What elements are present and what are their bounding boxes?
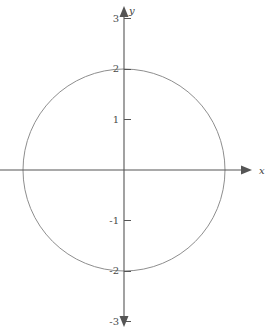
y-tick-label-2: 2 — [113, 64, 119, 74]
y-tick-label-neg-2: -2 — [109, 266, 119, 276]
plot-canvas — [0, 0, 272, 333]
y-tick-label-neg-3: -3 — [109, 317, 119, 327]
y-tick-label-neg-1: -1 — [109, 216, 119, 226]
y-axis-label: y — [129, 6, 135, 16]
plot-figure: 3 2 1 -1 -2 -3 y x — [0, 0, 272, 333]
y-tick-label-1: 1 — [113, 115, 119, 125]
x-axis-arrow-icon — [241, 166, 252, 175]
x-axis-label: x — [259, 166, 265, 176]
y-tick-label-3: 3 — [113, 14, 119, 24]
y-axis-arrow-up-icon — [120, 6, 129, 17]
